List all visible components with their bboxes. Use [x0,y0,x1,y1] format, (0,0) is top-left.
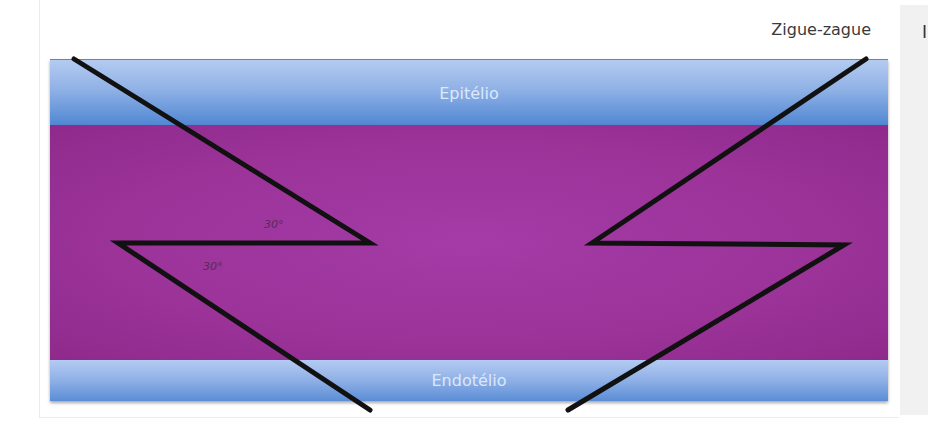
angle-label-lower: 30° [203,260,223,273]
incision-lines [0,0,928,435]
angle-label-upper: 30° [264,218,284,231]
left-zigzag-incision [74,59,370,410]
right-zigzag-incision [568,59,866,410]
